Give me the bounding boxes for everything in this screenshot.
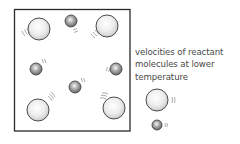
motion-lines-icon	[106, 67, 110, 72]
legend-small-molecule	[152, 120, 167, 130]
motion-lines-icon	[48, 92, 55, 101]
large-molecule	[22, 18, 50, 40]
legend-label-line: velocities of reactant	[135, 46, 239, 58]
large-molecule	[100, 93, 125, 119]
motion-lines-icon	[81, 78, 85, 82]
large-molecule	[91, 15, 118, 38]
motion-lines-icon	[165, 123, 167, 127]
legend-label-line: molecules at lower	[135, 58, 239, 70]
small-molecule	[65, 15, 78, 33]
motion-lines-icon	[172, 97, 175, 103]
motion-lines-icon	[100, 93, 108, 99]
small-molecule	[69, 78, 85, 93]
motion-lines-icon	[73, 29, 78, 33]
small-molecule	[30, 59, 46, 75]
small-molecule	[106, 63, 122, 75]
legend-label: velocities of reactant molecules at lowe…	[135, 46, 239, 83]
legend-large-molecule	[146, 89, 175, 111]
motion-lines-icon	[42, 59, 46, 63]
legend-label-line: temperature	[135, 71, 239, 83]
large-molecule	[27, 92, 55, 121]
